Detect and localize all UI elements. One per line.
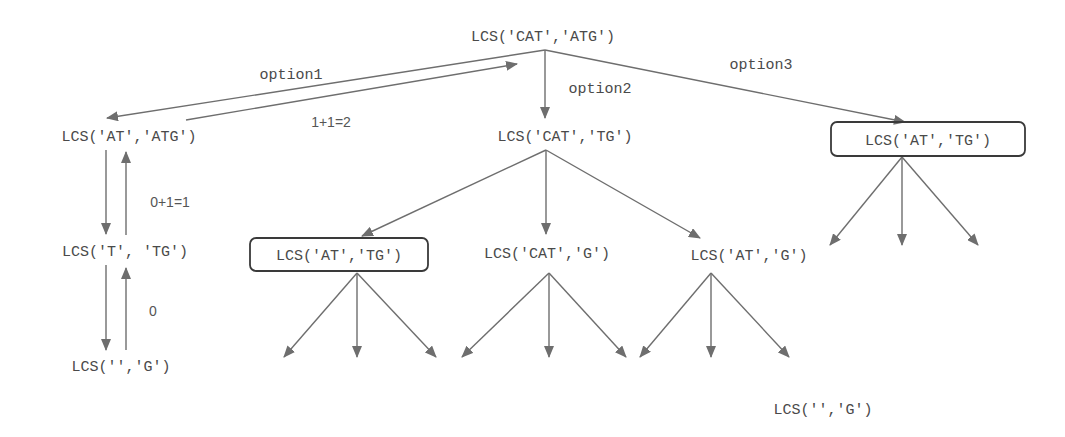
label-return-empty: 0	[149, 303, 157, 319]
edge-at-g-child-left	[640, 273, 711, 357]
option3-children-edges	[830, 157, 978, 245]
node-option3: LCS('AT','TG')	[865, 133, 991, 150]
label-return-option1: 1+1=2	[311, 114, 351, 130]
edge-cat-tg-to-at-tg	[362, 150, 546, 236]
node-root: LCS('CAT','ATG')	[471, 29, 615, 46]
edge-at-g-child-right	[711, 273, 789, 357]
edge-return-option1	[186, 64, 517, 120]
node-cat-g: LCS('CAT','G')	[484, 246, 610, 263]
edge-at-tg-child-right	[357, 273, 436, 357]
option2-children-edges	[362, 150, 700, 238]
node-at-g: LCS('AT','G')	[690, 248, 807, 265]
edge-option1	[107, 50, 545, 118]
lcs-recursion-tree-diagram: LCS('CAT','ATG') LCS('AT','ATG') LCS('CA…	[0, 0, 1065, 437]
edge-cat-tg-to-at-g	[546, 150, 700, 238]
edge-at-tg-child-left	[284, 273, 357, 357]
label-return-t-tg: 0+1=1	[150, 194, 190, 210]
node-t-tg: LCS('T', 'TG')	[62, 244, 188, 261]
edge-cat-g-child-left	[462, 273, 549, 357]
node-empty-g-bottom: LCS('','G')	[773, 402, 872, 419]
label-option1: option1	[259, 67, 322, 84]
node-at-tg-boxed: LCS('AT','TG')	[276, 248, 402, 265]
at-g-children-edges	[640, 273, 789, 357]
at-tg-children-edges	[284, 273, 436, 357]
cat-g-children-edges	[462, 273, 626, 357]
node-option1: LCS('AT','ATG')	[61, 129, 196, 146]
node-option2: LCS('CAT','TG')	[497, 129, 632, 146]
edge-cat-g-child-right	[549, 273, 626, 357]
edge-opt3-child-left	[830, 157, 902, 245]
node-empty-g-left: LCS('','G')	[71, 359, 170, 376]
label-option2: option2	[568, 81, 631, 98]
label-option3: option3	[729, 57, 792, 74]
edge-opt3-child-right	[902, 157, 978, 245]
